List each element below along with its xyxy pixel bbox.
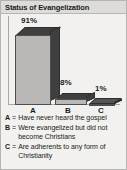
legend-item-c: C = Are adherents to any form of Christi… [5, 142, 124, 160]
bar-a-side-face [50, 27, 60, 101]
bar-category-a [15, 27, 51, 105]
legend-description-b: Were evangelized but did not become Chri… [18, 123, 124, 141]
legend-key-b: B [5, 123, 12, 132]
chart-figure: Status of Evangelization 91% 8% 1% A B C… [0, 0, 127, 170]
data-label-b: 8% [60, 78, 72, 87]
legend-item-a: A = Have never heard the gospel [5, 113, 124, 122]
plot-area: 91% 8% 1% A B C [1, 14, 127, 111]
chart-legend: A = Have never heard the gospel B = Were… [1, 113, 127, 161]
y-axis-line [8, 16, 9, 105]
legend-item-b: B = Were evangelized but did not become … [5, 123, 124, 141]
data-label-c: 1% [95, 84, 107, 93]
legend-description-c: Are adherents to any form of Christianit… [18, 142, 124, 160]
data-label-a: 91% [21, 16, 37, 25]
chart-title: Status of Evangelization [5, 3, 89, 12]
bar-category-c [89, 98, 115, 106]
bar-a-front-face [15, 35, 51, 105]
legend-description-a: Have never heard the gospel [18, 113, 107, 122]
bar-category-b [55, 93, 87, 105]
legend-key-c: C [5, 142, 12, 151]
legend-key-a: A [5, 113, 12, 122]
bar-b-front-face [55, 99, 87, 105]
